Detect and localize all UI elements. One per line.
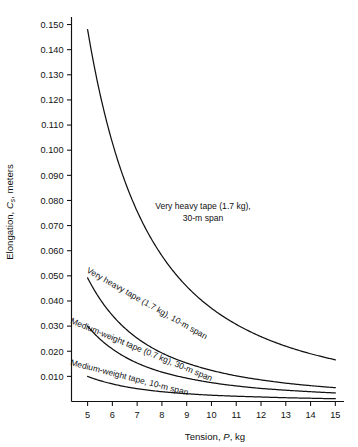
y-tick-label: 0.060	[41, 246, 64, 256]
y-tick-label: 0.150	[41, 20, 64, 30]
x-tick-label: 13	[281, 410, 291, 420]
x-tick-label: 15	[330, 410, 340, 420]
y-tick-label: 0.030	[41, 321, 64, 331]
y-axis-title: Elongation, Cs, meters	[4, 164, 16, 260]
x-tick-label: 9	[184, 410, 189, 420]
y-tick-label: 0.080	[41, 196, 64, 206]
svg-text:Elongation, Cs, meters: Elongation, Cs, meters	[4, 164, 16, 260]
x-tick-label: 10	[206, 410, 216, 420]
x-tick-label: 5	[85, 410, 90, 420]
y-tick-label: 0.050	[41, 271, 64, 281]
x-axis-title: Tension, P, kg	[185, 431, 245, 442]
y-tick-label: 0.020	[41, 347, 64, 357]
elongation-vs-tension-chart: 0.0100.0200.0300.0400.0500.0600.0700.080…	[0, 0, 358, 447]
x-tick-label: 12	[256, 410, 266, 420]
y-tick-label: 0.130	[41, 70, 64, 80]
y-tick-label: 0.010	[41, 372, 64, 382]
svg-text:30-m span: 30-m span	[183, 213, 224, 223]
x-tick-label: 6	[110, 410, 115, 420]
y-tick-label: 0.070	[41, 221, 64, 231]
x-tick-label: 14	[305, 410, 315, 420]
x-tick-label: 8	[159, 410, 164, 420]
y-tick-label: 0.090	[41, 171, 64, 181]
svg-text:Tension, P, kg: Tension, P, kg	[185, 431, 245, 442]
y-tick-label: 0.140	[41, 45, 64, 55]
svg-text:Very heavy tape (1.7 kg),: Very heavy tape (1.7 kg),	[155, 201, 251, 211]
x-tick-label: 7	[135, 410, 140, 420]
y-tick-label: 0.120	[41, 95, 64, 105]
y-tick-label: 0.100	[41, 145, 64, 155]
y-axis-tick-labels: 0.0100.0200.0300.0400.0500.0600.0700.080…	[41, 20, 64, 382]
y-tick-label: 0.110	[41, 120, 63, 130]
chart-figure: 0.0100.0200.0300.0400.0500.0600.0700.080…	[0, 0, 358, 447]
y-tick-label: 0.040	[41, 296, 64, 306]
x-tick-label: 11	[231, 410, 241, 420]
